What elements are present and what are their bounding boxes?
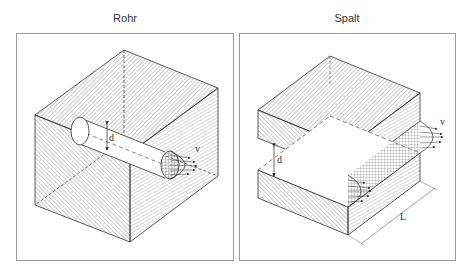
spalt-label-v: v xyxy=(440,116,445,127)
diagram-canvas: d v d v L xyxy=(0,0,474,275)
spalt-label-d: d xyxy=(277,154,282,165)
rohr-label-d: d xyxy=(109,132,114,143)
spalt-label-L: L xyxy=(400,211,406,222)
rohr-label-v: v xyxy=(195,143,200,154)
